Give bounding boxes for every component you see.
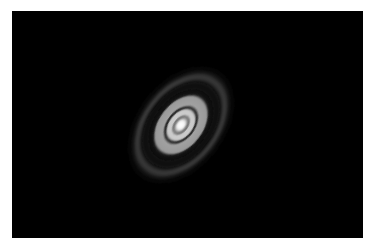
image-frame: Protoplanetary disk with concentric brig… — [12, 11, 363, 238]
protoplanetary-disk-image — [12, 11, 363, 238]
disk-group — [111, 51, 252, 199]
